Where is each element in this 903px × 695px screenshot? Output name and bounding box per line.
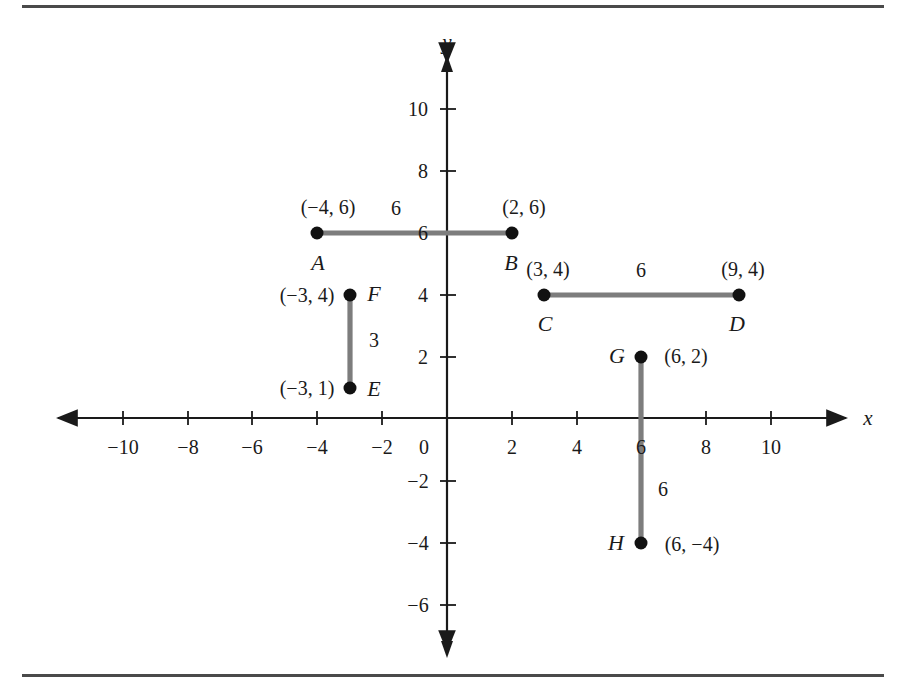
point-b-name-label: B	[504, 252, 517, 274]
x-tick-label-4: 4	[572, 437, 582, 457]
point-a-dot	[311, 227, 324, 240]
point-e-name-label: E	[367, 378, 380, 400]
x-tick-label--2: −2	[371, 437, 392, 457]
point-f-dot	[344, 289, 357, 302]
segment-ef	[344, 289, 357, 395]
point-b-coord-label: (2, 6)	[502, 197, 545, 217]
point-g-coord-label: (6, 2)	[664, 346, 707, 366]
point-c-coord-label: (3, 4)	[526, 259, 569, 279]
point-a-coord-label: (−4, 6)	[301, 197, 356, 217]
segment-ab-length-label: 6	[391, 198, 401, 218]
y-axis-arrow-up	[441, 55, 453, 72]
point-h-coord-label: (6, −4)	[665, 534, 720, 554]
x-tick-label-2: 2	[507, 437, 517, 457]
y-axis-arrow-down	[441, 641, 453, 658]
x-tick-label--10: −10	[107, 437, 138, 457]
point-c-dot	[538, 289, 551, 302]
y-tick-label-2: 2	[418, 347, 428, 367]
point-f-coord-label: (−3, 4)	[280, 285, 335, 305]
y-tick-label--2: −2	[407, 471, 428, 491]
point-g-dot	[635, 351, 648, 364]
y-tick-label-10: 10	[408, 99, 428, 119]
point-g-name-label: G	[609, 345, 625, 367]
point-h-name-label: H	[608, 532, 624, 554]
point-h-dot	[635, 537, 648, 550]
point-e-dot	[344, 382, 357, 395]
segment-cd-length-label: 6	[636, 260, 646, 280]
y-axis-label: y	[442, 32, 451, 53]
x-tick-label--6: −6	[241, 437, 262, 457]
y-tick-label-8: 8	[418, 161, 428, 181]
segment-cd	[538, 289, 746, 302]
x-tick-label-10: 10	[761, 437, 781, 457]
segment-gh-length-label: 6	[658, 479, 668, 499]
segment-ef-length-label: 3	[369, 330, 379, 350]
y-tick-label--6: −6	[407, 595, 428, 615]
coordinate-plane-plot	[0, 0, 903, 695]
x-tick-label--8: −8	[177, 437, 198, 457]
point-e-coord-label: (−3, 1)	[280, 378, 335, 398]
segment-ab	[311, 227, 519, 240]
point-a-name-label: A	[311, 252, 324, 274]
y-tick-label--4: −4	[407, 533, 428, 553]
x-tick-label-8: 8	[701, 437, 711, 457]
y-tick-label-6: 6	[418, 223, 428, 243]
point-d-dot	[733, 289, 746, 302]
point-d-coord-label: (9, 4)	[721, 259, 764, 279]
x-axis-label: x	[863, 408, 872, 429]
point-c-name-label: C	[538, 313, 553, 335]
point-b-dot	[506, 227, 519, 240]
figure-container: x y −10 −8 −6 −4 −2 2 4 6 8 10 0 10 8 6 …	[0, 0, 903, 695]
y-tick-label-4: 4	[418, 285, 428, 305]
origin-label: 0	[419, 437, 429, 457]
x-tick-label-6: 6	[636, 437, 646, 457]
x-tick-label--4: −4	[306, 437, 327, 457]
point-f-name-label: F	[367, 283, 380, 305]
point-d-name-label: D	[729, 313, 745, 335]
